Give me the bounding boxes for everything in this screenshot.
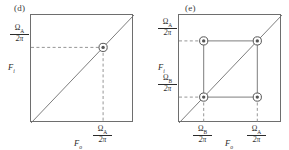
x-tick-numerator-B-e: ΩB (193, 125, 212, 135)
panel-label-d: (d) (14, 3, 25, 13)
x-tick-denominator-B-e: 2π (193, 135, 212, 144)
x-tick-label-A-e: ΩA 2π (247, 125, 266, 144)
plot-area-e (179, 15, 280, 121)
marker-m-B-B (200, 93, 208, 101)
plot-area-d (31, 15, 132, 121)
panel-d: (d) ΩA 2π (0, 0, 145, 150)
y-tick-numerator-A-e: ΩA (158, 18, 177, 28)
y-tick-denominator-A-e: 2π (158, 28, 177, 37)
x-axis-label-e: Fo (225, 138, 233, 150)
marker-m-A-A (99, 43, 107, 51)
plot-frame-d (30, 14, 133, 122)
panel-e: (e) (145, 0, 289, 150)
y-axis-label-d: Fi (8, 62, 15, 74)
x-axis-label-d: Fo (74, 138, 82, 150)
diagonal-line (31, 15, 134, 123)
y-tick-label-A-e: ΩA 2π (158, 18, 177, 37)
x-tick-denominator-A-e: 2π (247, 135, 266, 144)
plot-svg-e (179, 15, 282, 123)
figure-root: (d) ΩA 2π (0, 0, 289, 150)
x-tick-numerator-A-e: ΩA (247, 125, 266, 135)
x-tick-numerator-A-d: ΩA (93, 125, 112, 135)
y-tick-denominator-A-d: 2π (10, 34, 29, 43)
y-tick-numerator-A-d: ΩA (10, 24, 29, 34)
y-tick-label-B-e: ΩB 2π (158, 74, 177, 93)
panel-label-e: (e) (185, 3, 196, 13)
marker-m-B-A (200, 37, 208, 45)
y-axis-label-e: Fi (158, 62, 165, 74)
y-tick-numerator-B-e: ΩB (158, 74, 177, 84)
plot-frame-e (178, 14, 281, 122)
marker-m-A-A (253, 37, 261, 45)
y-tick-label-A-d: ΩA 2π (10, 24, 29, 43)
x-tick-denominator-A-d: 2π (93, 135, 112, 144)
y-tick-denominator-B-e: 2π (158, 84, 177, 93)
diagonal-line (179, 15, 282, 123)
plot-svg-d (31, 15, 134, 123)
x-tick-label-A-d: ΩA 2π (93, 125, 112, 144)
marker-m-A-B (253, 93, 261, 101)
x-tick-label-B-e: ΩB 2π (193, 125, 212, 144)
